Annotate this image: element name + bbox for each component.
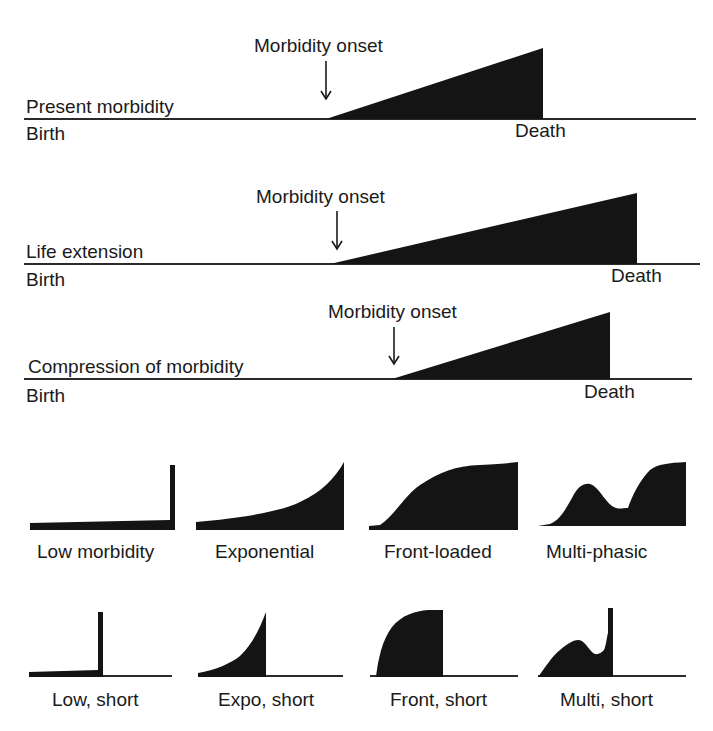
birth-label: Birth xyxy=(26,269,65,290)
down-arrow-icon xyxy=(389,327,399,364)
exponential-curve xyxy=(196,462,344,530)
birth-label: Birth xyxy=(26,385,65,406)
shape-multi-short: Multi, short xyxy=(538,608,686,710)
shape-low-short: Low, short xyxy=(29,612,172,710)
shape-front-short: Front, short xyxy=(370,610,518,710)
shape-expo-short: Expo, short xyxy=(198,612,343,710)
front-short-curve xyxy=(376,610,443,677)
low-short-curve xyxy=(29,612,103,677)
shape-label: Low, short xyxy=(52,689,139,710)
scenario-label: Life extension xyxy=(26,241,143,262)
morbidity-diagram: Morbidity onset Present morbidity Birth … xyxy=(0,0,713,731)
expo-short-curve xyxy=(198,612,266,677)
onset-label: Morbidity onset xyxy=(256,186,386,207)
panel-life-extension: Morbidity onset Life extension Birth Dea… xyxy=(24,186,700,290)
onset-label: Morbidity onset xyxy=(254,35,384,56)
death-label: Death xyxy=(611,265,662,286)
death-label: Death xyxy=(515,120,566,141)
scenario-label: Compression of morbidity xyxy=(28,356,244,377)
shape-label: Expo, short xyxy=(218,689,315,710)
death-label: Death xyxy=(584,381,635,402)
shape-low-morbidity: Low morbidity xyxy=(30,465,175,562)
shape-label: Front-loaded xyxy=(384,541,492,562)
shape-label: Multi, short xyxy=(560,689,654,710)
panel-compression-of-morbidity: Morbidity onset Compression of morbidity… xyxy=(24,301,692,406)
shape-front-loaded: Front-loaded xyxy=(369,462,518,562)
shape-label: Low morbidity xyxy=(37,541,155,562)
morbidity-wedge xyxy=(326,48,543,119)
morbidity-wedge xyxy=(392,312,610,379)
shape-label: Exponential xyxy=(215,541,314,562)
shape-label: Multi-phasic xyxy=(546,541,647,562)
front-loaded-curve xyxy=(369,462,518,530)
shape-label: Front, short xyxy=(390,689,488,710)
shape-multi-phasic: Multi-phasic xyxy=(538,462,686,562)
panel-present-morbidity: Morbidity onset Present morbidity Birth … xyxy=(24,35,696,144)
multi-phasic-curve xyxy=(538,462,686,526)
down-arrow-icon xyxy=(332,211,342,249)
down-arrow-icon xyxy=(321,61,331,99)
birth-label: Birth xyxy=(26,123,65,144)
shape-exponential: Exponential xyxy=(196,462,344,562)
multi-short-curve xyxy=(538,608,613,677)
low-morbidity-curve xyxy=(30,465,175,530)
onset-label: Morbidity onset xyxy=(328,301,458,322)
scenario-label: Present morbidity xyxy=(26,96,174,117)
